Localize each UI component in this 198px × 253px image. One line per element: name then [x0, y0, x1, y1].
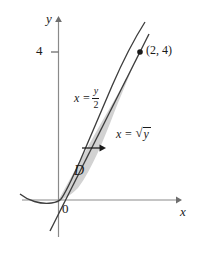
figure-canvas: [0, 0, 198, 253]
origin-label: 0: [62, 202, 69, 215]
fraction-numerator: y: [93, 86, 99, 97]
curve-label-x-equals-y-over-2: x = y 2: [74, 86, 99, 110]
region-label-d: D: [74, 164, 84, 178]
y-axis-tick-label-4: 4: [36, 44, 43, 57]
calculus-region-figure: y x 4 0 (2, 4) D x = y 2 x = √ y: [0, 0, 198, 253]
fraction-y-over-2: y 2: [92, 86, 99, 110]
x-axis-arrowhead: [176, 197, 182, 204]
radical-sign-icon: √: [135, 126, 142, 139]
radicand: y: [143, 127, 151, 141]
y-axis-label: y: [46, 12, 52, 25]
region-width-arrow-head: [100, 145, 107, 152]
point-label-2-4: (2, 4): [146, 44, 172, 56]
y-axis-arrowhead: [55, 16, 62, 22]
fraction-denominator: 2: [92, 100, 99, 111]
square-root-expression: √ y: [135, 126, 150, 141]
curve-label-lhs: x =: [74, 92, 90, 104]
point-marker-2-4: [137, 49, 143, 55]
curve-label-x-equals-sqrt-y: x = √ y: [116, 126, 151, 141]
x-axis-label: x: [180, 205, 186, 218]
curve-label-lhs: x =: [116, 128, 132, 140]
